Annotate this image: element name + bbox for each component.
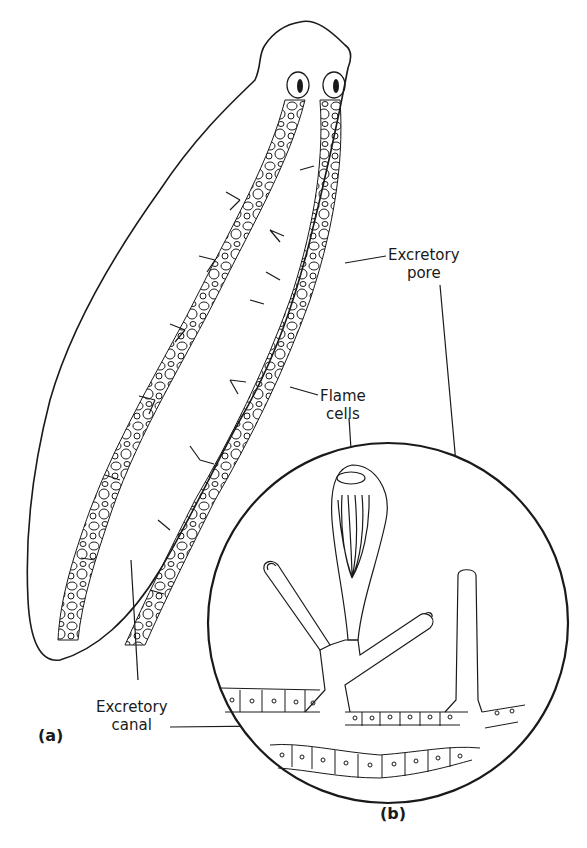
label-flame-cells-line2: cells [320, 405, 366, 423]
label-excretory-canal-line1: Excretory [96, 698, 168, 716]
panel-label-a: (a) [38, 726, 63, 745]
label-flame-cells-line1: Flame [320, 387, 366, 405]
label-excretory-pore-line1: Excretory [388, 246, 460, 264]
excretory-pore-leader [345, 256, 386, 263]
label-excretory-canal: Excretory canal [96, 698, 168, 734]
label-flame-cells: Flame cells [320, 387, 366, 423]
diagram-canvas [0, 0, 587, 848]
eyespots [287, 72, 345, 98]
panel-label-b: (b) [380, 804, 406, 823]
label-excretory-pore: Excretory pore [388, 246, 460, 282]
flame-cells-leader [290, 387, 318, 395]
label-excretory-canal-line2: canal [96, 716, 168, 734]
inset-magnification [208, 443, 568, 803]
label-excretory-pore-line2: pore [388, 264, 460, 282]
